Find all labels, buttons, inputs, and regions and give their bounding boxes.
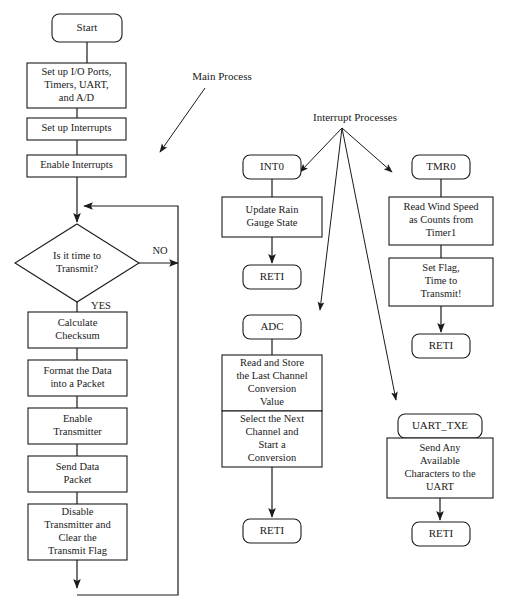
node-label: Read and Store bbox=[240, 357, 304, 368]
flowchart-canvas: StartSet up I/O Ports,Timers, UART,and A… bbox=[0, 0, 508, 612]
flow-node-update-rain-gauge[interactable]: Update RainGauge State bbox=[222, 197, 322, 237]
annotation-arrows-layer bbox=[160, 88, 396, 400]
node-label: Transmit Flag bbox=[48, 545, 108, 556]
flow-node-read-store-channel[interactable]: Read and Storethe Last ChannelConversion… bbox=[222, 355, 322, 411]
node-label: Checksum bbox=[55, 330, 99, 341]
node-label: into a Packet bbox=[50, 378, 104, 389]
node-label: Enable bbox=[63, 413, 92, 424]
node-label: and A/D bbox=[59, 92, 95, 103]
node-label: Start a bbox=[258, 439, 285, 450]
annotation-main-process: Main Process bbox=[192, 70, 252, 82]
node-label: TMR0 bbox=[426, 160, 456, 172]
flow-node-int0[interactable]: INT0 bbox=[243, 155, 301, 179]
annotation-arrow bbox=[160, 88, 205, 152]
node-label: RETI bbox=[260, 270, 285, 282]
node-label: Is it time to bbox=[53, 250, 101, 261]
node-label: Timer1 bbox=[426, 227, 457, 238]
node-label: Clear the bbox=[58, 532, 97, 543]
flow-node-enable-transmitter[interactable]: EnableTransmitter bbox=[28, 408, 127, 444]
node-label: Gauge State bbox=[246, 217, 297, 228]
flow-node-disable-transmitter[interactable]: DisableTransmitter andClear theTransmit … bbox=[28, 504, 127, 560]
node-label: Send Any bbox=[419, 442, 461, 453]
node-label: RETI bbox=[429, 527, 454, 539]
node-label: Transmitter bbox=[53, 426, 102, 437]
edge-label-label-yes: YES bbox=[91, 300, 111, 311]
node-label: RETI bbox=[429, 339, 454, 351]
flow-node-select-next-channel[interactable]: Select the NextChannel andStart aConvers… bbox=[222, 411, 322, 467]
flow-node-uart-reti[interactable]: RETI bbox=[412, 522, 470, 546]
flowchart-svg: StartSet up I/O Ports,Timers, UART,and A… bbox=[0, 0, 508, 612]
flow-node-adc[interactable]: ADC bbox=[243, 315, 301, 339]
flow-node-format-packet[interactable]: Format the Datainto a Packet bbox=[28, 360, 127, 396]
flow-node-setup-interrupts[interactable]: Set up Interrupts bbox=[27, 118, 126, 140]
node-label: as Counts from bbox=[409, 214, 473, 225]
node-label: Transmitter and bbox=[44, 519, 111, 530]
flow-node-start[interactable]: Start bbox=[52, 14, 122, 42]
annotation-interrupt-processes: Interrupt Processes bbox=[313, 111, 397, 123]
node-label: Set up Interrupts bbox=[42, 122, 112, 133]
flow-node-calculate-checksum[interactable]: CalculateChecksum bbox=[28, 312, 127, 348]
node-label: Available bbox=[420, 455, 460, 466]
flow-node-read-wind-speed[interactable]: Read Wind Speedas Counts fromTimer1 bbox=[389, 197, 493, 245]
node-label: Transmit! bbox=[420, 288, 461, 299]
node-label: Disable bbox=[61, 506, 93, 517]
node-label: Start bbox=[77, 21, 98, 33]
node-label: Packet bbox=[64, 474, 92, 485]
node-label: Enable Interrupts bbox=[40, 159, 113, 170]
node-label: Set up I/O Ports, bbox=[41, 66, 111, 77]
node-label: Value bbox=[260, 396, 284, 407]
node-label: UART_TXE bbox=[412, 419, 468, 431]
node-label: RETI bbox=[260, 524, 285, 536]
flow-node-int0-reti[interactable]: RETI bbox=[243, 265, 301, 289]
node-label: Read Wind Speed bbox=[403, 201, 479, 212]
flow-node-send-characters[interactable]: Send AnyAvailableCharacters to theUART bbox=[387, 438, 493, 498]
node-label: Set Flag, bbox=[422, 262, 459, 273]
flow-node-set-flag[interactable]: Set Flag,Time toTransmit! bbox=[389, 258, 493, 306]
node-label: Update Rain bbox=[246, 204, 300, 215]
flow-node-send-data-packet[interactable]: Send DataPacket bbox=[28, 456, 127, 492]
node-label: Send Data bbox=[56, 461, 100, 472]
node-label: Calculate bbox=[58, 317, 98, 328]
node-label: INT0 bbox=[260, 160, 284, 172]
node-label: Transmit? bbox=[56, 263, 99, 274]
node-label: ADC bbox=[260, 320, 283, 332]
edge-label-label-no: NO bbox=[152, 245, 168, 256]
annotation-arrow bbox=[320, 128, 342, 310]
nodes-layer: StartSet up I/O Ports,Timers, UART,and A… bbox=[15, 14, 493, 560]
flow-node-uart-txe[interactable]: UART_TXE bbox=[398, 414, 482, 438]
flow-node-time-to-transmit[interactable]: Is it time toTransmit? bbox=[15, 224, 139, 302]
annotation-arrow bbox=[300, 128, 342, 172]
flow-node-tmr0[interactable]: TMR0 bbox=[412, 155, 470, 179]
flow-node-tmr0-reti[interactable]: RETI bbox=[412, 334, 470, 358]
node-label: Conversion bbox=[248, 383, 297, 394]
flow-node-enable-interrupts[interactable]: Enable Interrupts bbox=[27, 155, 126, 177]
flow-node-adc-reti[interactable]: RETI bbox=[243, 519, 301, 543]
node-label: UART bbox=[426, 481, 455, 492]
node-label: the Last Channel bbox=[236, 370, 307, 381]
node-label: Channel and bbox=[246, 426, 300, 437]
node-label: Select the Next bbox=[240, 413, 304, 424]
node-label: Characters to the bbox=[404, 468, 475, 479]
node-label: Timers, UART, bbox=[44, 79, 108, 90]
node-label: Conversion bbox=[248, 452, 297, 463]
node-label: Format the Data bbox=[43, 365, 112, 376]
node-label: Time to bbox=[425, 275, 458, 286]
flow-node-setup-io[interactable]: Set up I/O Ports,Timers, UART,and A/D bbox=[27, 63, 126, 108]
